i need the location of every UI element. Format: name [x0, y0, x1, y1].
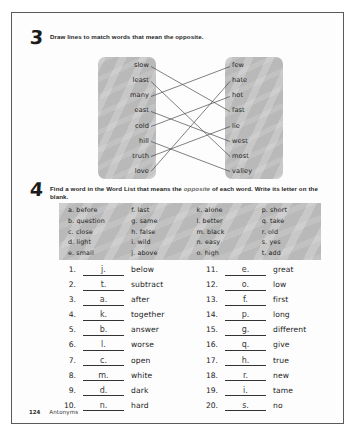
answer-blank[interactable]: f. — [225, 295, 266, 306]
answer-blank[interactable]: b. — [83, 325, 124, 336]
word-list-box: a. beforeb. questionc. closed. lighte. s… — [59, 203, 321, 260]
answer-row: 4.k.together — [56, 310, 182, 325]
answer-blank[interactable]: a. — [83, 295, 124, 306]
answer-blank[interactable]: h. — [225, 356, 266, 367]
answer-prompt-word: hard — [131, 401, 149, 410]
page-topic-label: Antonyms — [49, 409, 78, 415]
answer-row: 17.h.true — [198, 356, 324, 371]
answer-blank[interactable]: e. — [225, 265, 266, 276]
answer-number: 6. — [56, 340, 76, 349]
answer-blank[interactable]: j. — [83, 265, 124, 276]
word-list-item: r. old — [262, 229, 321, 236]
page-number: 124 — [29, 409, 40, 415]
word-list-column-1: a. beforeb. questionc. closed. lighte. s… — [68, 207, 131, 257]
answer-prompt-word: open — [131, 356, 150, 365]
left-word-love[interactable]: love — [98, 168, 156, 175]
word-list-item: c. close — [68, 229, 131, 236]
answer-prompt-word: new — [273, 371, 289, 380]
answer-prompt-word: different — [273, 325, 306, 334]
answer-prompt-word: no — [273, 401, 283, 410]
answer-blank[interactable]: g. — [225, 325, 266, 336]
answer-blank[interactable]: q. — [225, 340, 266, 351]
left-word-panel: slowleastmanyeastcoldhilltruthlove — [98, 57, 156, 179]
answer-prompt-word: after — [131, 295, 149, 304]
page-footer: 124 Antonyms — [29, 409, 78, 415]
left-word-hill[interactable]: hill — [98, 138, 156, 145]
answer-blank[interactable]: s. — [225, 401, 266, 412]
matching-exercise: slowleastmanyeastcoldhilltruthlove fewha… — [98, 57, 283, 179]
answer-blank[interactable]: t. — [83, 280, 124, 291]
answer-blank[interactable]: i. — [225, 386, 266, 397]
answer-blank[interactable]: r. — [225, 371, 266, 382]
answer-row: 13.f.first — [198, 295, 324, 310]
word-list-item: g. same — [131, 218, 196, 225]
answer-row: 19.i.tame — [198, 386, 324, 401]
right-word-west[interactable]: west — [225, 138, 283, 145]
right-word-panel: fewhatehotfastliewestmostvalley — [225, 57, 283, 179]
word-list-item: n. easy — [196, 239, 261, 246]
left-word-cold[interactable]: cold — [98, 123, 156, 130]
left-word-truth[interactable]: truth — [98, 153, 156, 160]
word-list-item: d. light — [68, 239, 131, 246]
word-list-column-3: k. alonel. betterm. blackn. easyo. high — [196, 207, 261, 257]
left-word-least[interactable]: least — [98, 77, 156, 84]
answer-row: 20.s.no — [198, 401, 324, 416]
answers-column-right: 11.e.great12.o.low13.f.first14.p.long15.… — [198, 265, 324, 416]
answer-number: 2. — [56, 280, 76, 289]
answer-prompt-word: white — [131, 371, 152, 380]
answer-number: 4. — [56, 310, 76, 319]
match-line-love-hate — [151, 82, 230, 172]
right-word-valley[interactable]: valley — [225, 168, 283, 175]
answer-number: 17. — [198, 356, 218, 365]
answer-prompt-word: subtract — [131, 280, 163, 289]
answer-row: 5.b.answer — [56, 325, 182, 340]
right-word-lie[interactable]: lie — [225, 123, 283, 130]
answer-row: 14.p.long — [198, 310, 324, 325]
left-word-slow[interactable]: slow — [98, 62, 156, 69]
word-list-item: e. small — [68, 250, 131, 257]
answer-row: 12.o.low — [198, 280, 324, 295]
left-word-east[interactable]: east — [98, 107, 156, 114]
answer-row: 18.r.new — [198, 371, 324, 386]
answer-row: 16.q.give — [198, 340, 324, 355]
word-list-item: i. wild — [131, 239, 196, 246]
answer-row: 2.t.subtract — [56, 280, 182, 295]
answer-number: 8. — [56, 371, 76, 380]
answer-row: 3.a.after — [56, 295, 182, 310]
right-word-fast[interactable]: fast — [225, 107, 283, 114]
answer-blank[interactable]: c. — [83, 356, 124, 367]
answer-number: 12. — [198, 280, 218, 289]
answer-row: 6.l.worse — [56, 340, 182, 355]
answer-blank[interactable]: p. — [225, 310, 266, 321]
answer-blank[interactable]: m. — [83, 371, 124, 382]
answer-blank[interactable]: o. — [225, 280, 266, 291]
word-list-item: l. better — [196, 218, 261, 225]
exercise-3-instruction: Draw lines to match words that mean the … — [50, 29, 203, 41]
exercise-4-header: 4 Find a word in the Word List that mean… — [30, 181, 318, 202]
answer-number: 18. — [198, 371, 218, 380]
right-word-most[interactable]: most — [225, 153, 283, 160]
right-word-few[interactable]: few — [225, 62, 283, 69]
answer-row: 11.e.great — [198, 265, 324, 280]
answer-blank[interactable]: l. — [83, 340, 124, 351]
instruction-text-part1: Find a word in the Word List that means … — [50, 185, 184, 192]
answer-prompt-word: below — [131, 265, 154, 274]
answer-blank[interactable]: d. — [83, 386, 124, 397]
match-line-many-few — [151, 67, 230, 97]
answer-number: 14. — [198, 310, 218, 319]
answer-number: 13. — [198, 295, 218, 304]
right-word-hate[interactable]: hate — [225, 77, 283, 84]
answer-row: 1.j.below — [56, 265, 182, 280]
answer-blank[interactable]: n. — [83, 401, 124, 412]
answer-prompt-word: first — [273, 295, 288, 304]
left-word-many[interactable]: many — [98, 92, 156, 99]
match-line-hill-valley — [151, 142, 230, 172]
answer-number: 20. — [198, 401, 218, 410]
exercise-3-header: 3 Draw lines to match words that mean th… — [30, 29, 203, 46]
right-word-hot[interactable]: hot — [225, 92, 283, 99]
match-line-east-west — [151, 112, 230, 142]
answer-prompt-word: together — [131, 310, 165, 319]
answer-number: 5. — [56, 325, 76, 334]
match-line-cold-hot — [151, 97, 230, 127]
answer-blank[interactable]: k. — [83, 310, 124, 321]
